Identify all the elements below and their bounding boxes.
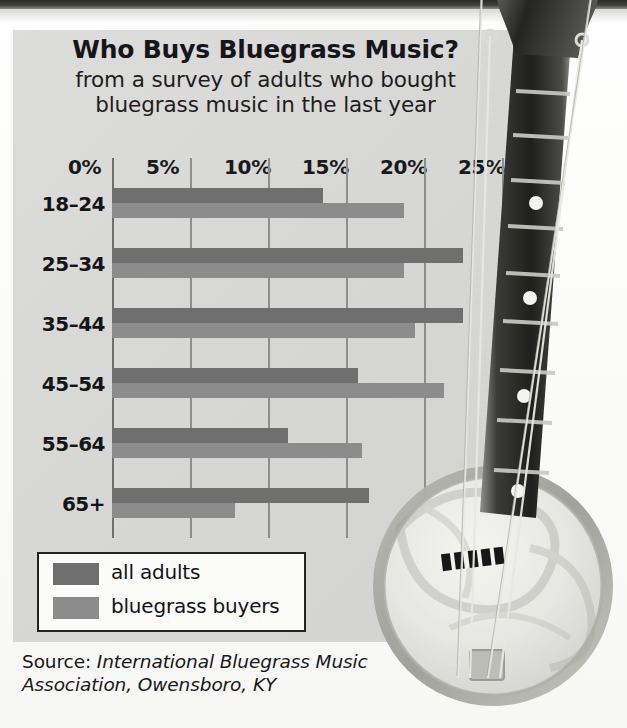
category-label-35-44: 35–44	[21, 312, 105, 336]
legend-swatch-bluegrass-buyers	[53, 597, 99, 619]
gridline-20	[424, 158, 426, 538]
category-label-45-54: 45–54	[21, 372, 105, 396]
source-note: Source: International Bluegrass Music As…	[22, 650, 382, 697]
chart-legend: all adults bluegrass buyers	[37, 552, 306, 632]
chart-subtitle-line-1: from a survey of adults who bought	[13, 67, 518, 92]
page-title: Who Buys Bluegrass Music?	[13, 36, 518, 63]
category-label-25-34: 25–34	[21, 252, 105, 276]
legend-label-all-adults: all adults	[111, 560, 200, 584]
bar-all-adults-25-34	[112, 248, 463, 263]
bar-bluegrass-buyers-35-44	[112, 323, 415, 338]
bar-all-adults-45-54	[112, 368, 358, 383]
bar-bluegrass-buyers-55-64	[112, 443, 362, 458]
x-tick-label-15: 15%	[302, 155, 349, 179]
category-label-18-24: 18–24	[21, 192, 105, 216]
bar-bluegrass-buyers-65+	[112, 503, 235, 518]
bar-all-adults-18-24	[112, 188, 323, 203]
chart-subtitle-line-2: bluegrass music in the last year	[13, 92, 518, 117]
x-axis-tick-labels: 0%5%10%15%20%25%	[13, 155, 518, 185]
category-label-55-64: 55–64	[21, 432, 105, 456]
bar-all-adults-55-64	[112, 428, 288, 443]
gridline-25	[502, 158, 504, 538]
scan-edge-fade	[0, 9, 627, 23]
chart-subtitle: from a survey of adults who bought blueg…	[13, 67, 518, 117]
legend-label-bluegrass-buyers: bluegrass buyers	[111, 594, 280, 618]
bar-bluegrass-buyers-18-24	[112, 203, 404, 218]
bar-all-adults-65+	[112, 488, 369, 503]
x-tick-label-5: 5%	[146, 155, 179, 179]
chart-panel: 0%5%10%15%20%25% 18–2425–3435–4445–5455–…	[13, 30, 518, 642]
x-tick-label-0: 0%	[68, 155, 101, 179]
bar-bluegrass-buyers-45-54	[112, 383, 444, 398]
bar-all-adults-35-44	[112, 308, 463, 323]
bar-bluegrass-buyers-25-34	[112, 263, 404, 278]
scan-edge-band	[0, 0, 627, 9]
x-tick-label-10: 10%	[224, 155, 271, 179]
x-tick-label-25: 25%	[458, 155, 505, 179]
source-prefix: Source:	[22, 651, 97, 672]
category-label-65+: 65+	[21, 492, 105, 516]
title-block: Who Buys Bluegrass Music? from a survey …	[13, 36, 518, 117]
x-tick-label-20: 20%	[380, 155, 427, 179]
legend-swatch-all-adults	[53, 563, 99, 585]
plot-area: 0%5%10%15%20%25% 18–2425–3435–4445–5455–…	[13, 30, 518, 642]
